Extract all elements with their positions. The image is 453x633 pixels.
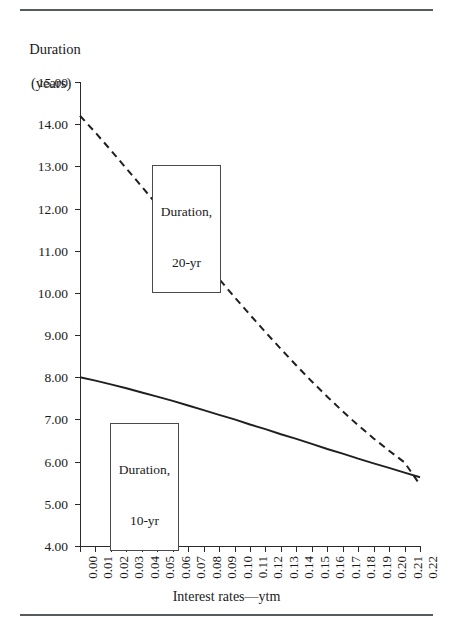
x-axis-tick-label: 0.11 [255,556,271,578]
callout-duration-10yr: Duration, 10-yr [110,423,179,551]
x-axis-tick [405,546,406,552]
x-axis-tick [389,546,390,552]
callout-duration-20yr: Duration, 20-yr [152,165,221,293]
y-axis-title-line1: Duration [29,41,81,57]
x-axis-tick [312,546,313,552]
x-axis-tick [343,546,344,552]
x-axis-tick-label: 0.14 [301,556,317,579]
x-axis-tick-label: 0.18 [363,556,379,579]
x-axis-tick [95,546,96,552]
x-axis-tick [80,546,81,552]
y-axis-tick-label: 14.00 [38,117,68,133]
x-axis-tick-label: 0.04 [147,556,163,579]
x-axis-tick [235,546,236,552]
x-axis-tick-label: 0.20 [394,556,410,579]
x-axis-tick-label: 0.22 [425,556,441,579]
x-axis-tick-label: 0.06 [178,556,194,579]
x-axis-tick-label: 0.01 [100,556,116,579]
x-axis-tick-label: 0.16 [332,556,348,579]
y-axis-tick-label: 4.00 [44,539,68,555]
y-axis-tick-label: 9.00 [44,328,68,344]
y-axis-tick-label: 7.00 [44,412,68,428]
x-axis-tick [281,546,282,552]
x-axis-tick-label: 0.02 [116,556,132,579]
x-axis-tick [219,546,220,552]
x-axis-tick-label: 0.21 [410,556,426,579]
x-axis-tick-label: 0.07 [193,556,209,579]
y-axis-tick-label: 12.00 [38,202,68,218]
x-axis-tick-label: 0.15 [317,556,333,579]
callout-10yr-line2: 10-yr [117,512,172,529]
x-axis-tick-label: 0.19 [379,556,395,579]
x-axis-tick [327,546,328,552]
x-axis-tick-label: 0.10 [240,556,256,579]
callout-20yr-line1: Duration, [159,203,214,220]
y-axis-title: Duration (years) [22,24,81,109]
x-axis-tick [204,546,205,552]
x-axis-tick-label: 0.13 [286,556,302,579]
x-axis-tick [374,546,375,552]
y-axis-tick-label: 13.00 [38,159,68,175]
x-axis-tick-label: 0.08 [209,556,225,579]
y-axis-tick-label: 6.00 [44,455,68,471]
x-axis-tick [250,546,251,552]
y-axis-tick-label: 15.00 [38,75,68,91]
x-axis-tick-label: 0.05 [162,556,178,579]
page-rule-bottom [20,614,433,616]
callout-10yr-line1: Duration, [117,461,172,478]
x-axis-tick [188,546,189,552]
x-axis-tick-label: 0.03 [131,556,147,579]
x-axis-caption: Interest rates—ytm [0,589,453,605]
y-axis-tick-label: 8.00 [44,370,68,386]
x-axis-tick [296,546,297,552]
y-axis-tick-label: 5.00 [44,497,68,513]
x-axis-tick-label: 0.09 [224,556,240,579]
y-axis-tick-label: 11.00 [38,244,68,260]
x-axis-tick [265,546,266,552]
x-axis-tick-label: 0.12 [270,556,286,579]
x-axis-tick-label: 0.00 [85,556,101,579]
x-axis-tick [420,546,421,552]
x-axis-tick-label: 0.17 [348,556,364,579]
y-axis-tick-label: 10.00 [38,286,68,302]
page-rule-top [20,9,433,11]
x-axis-tick [358,546,359,552]
callout-20yr-line2: 20-yr [159,254,214,271]
